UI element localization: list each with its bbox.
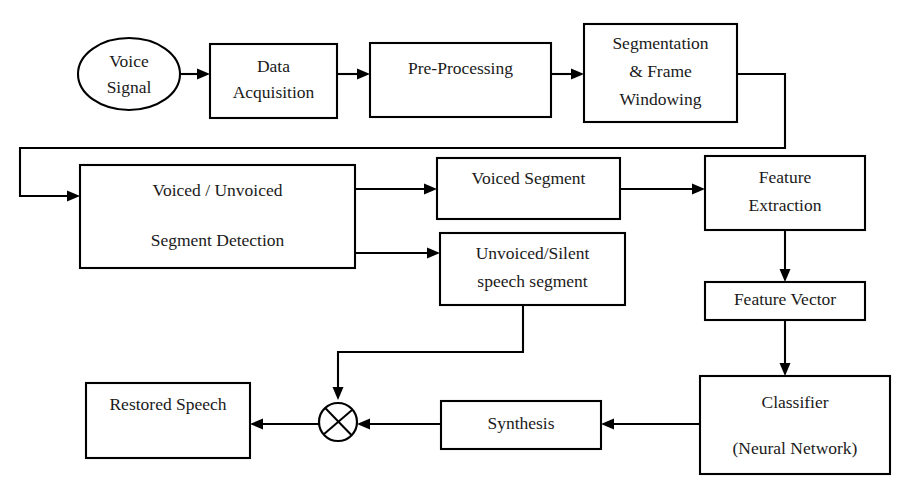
- arrowhead-voice-to-acquisition: [197, 69, 210, 80]
- arrowhead-junction-to-restored-speech: [250, 419, 263, 430]
- connector-unvoiced-to-junction: [338, 305, 523, 392]
- node-voiced-segment-label: Voiced Segment: [472, 168, 586, 188]
- node-unvoiced-silent-segment-label-line2: speech segment: [477, 271, 587, 291]
- node-restored-speech-label: Restored Speech: [109, 394, 226, 414]
- node-voice-signal-label-line2: Signal: [107, 77, 152, 97]
- node-pre-processing-label: Pre-Processing: [408, 58, 513, 78]
- arrowhead-classifier-to-synthesis: [601, 419, 614, 430]
- arrowhead-vuv-to-unvoiced-segment: [427, 248, 440, 259]
- arrowhead-vector-to-classifier: [780, 363, 791, 376]
- node-voice-signal: [78, 38, 180, 110]
- node-pre-processing: [370, 43, 551, 117]
- node-data-acquisition-label-line1: Data: [257, 56, 290, 76]
- arrowhead-vuv-to-voiced-segment: [424, 184, 437, 195]
- node-voiced-unvoiced-detection-label-line1: Voiced / Unvoiced: [153, 180, 283, 200]
- arrowhead-segmentation-to-vuv: [67, 191, 80, 202]
- node-segmentation-label-line1: Segmentation: [612, 33, 708, 53]
- arrowhead-voiced-to-feature-extraction: [692, 184, 705, 195]
- arrowhead-preprocessing-to-segmentation: [571, 69, 584, 80]
- flowchart-canvas: Voice Signal Data Acquisition Pre-Proces…: [0, 0, 908, 499]
- node-classifier-label-line2: (Neural Network): [733, 438, 858, 458]
- node-voice-signal-label-line1: Voice: [109, 51, 149, 71]
- arrowhead-extraction-to-vector: [780, 269, 791, 282]
- node-classifier-label-line1: Classifier: [761, 392, 828, 412]
- node-feature-vector-label: Feature Vector: [734, 289, 836, 309]
- arrowhead-unvoiced-to-junction: [333, 387, 344, 400]
- arrowhead-acquisition-to-preprocessing: [357, 69, 370, 80]
- node-unvoiced-silent-segment-label-line1: Unvoiced/Silent: [476, 243, 590, 263]
- node-data-acquisition-label-line2: Acquisition: [233, 82, 315, 102]
- node-voiced-unvoiced-detection-label-line2: Segment Detection: [151, 230, 285, 250]
- node-synthesis-label: Synthesis: [487, 413, 554, 433]
- flowchart-diagram: Voice Signal Data Acquisition Pre-Proces…: [0, 0, 908, 499]
- arrowhead-synthesis-to-junction: [357, 419, 370, 430]
- node-segmentation-label-line2: & Frame: [629, 61, 692, 81]
- node-feature-extraction-label-line2: Extraction: [749, 195, 822, 215]
- node-feature-extraction-label-line1: Feature: [759, 167, 812, 187]
- node-classifier: [700, 376, 890, 474]
- node-segmentation-label-line3: Windowing: [620, 89, 702, 109]
